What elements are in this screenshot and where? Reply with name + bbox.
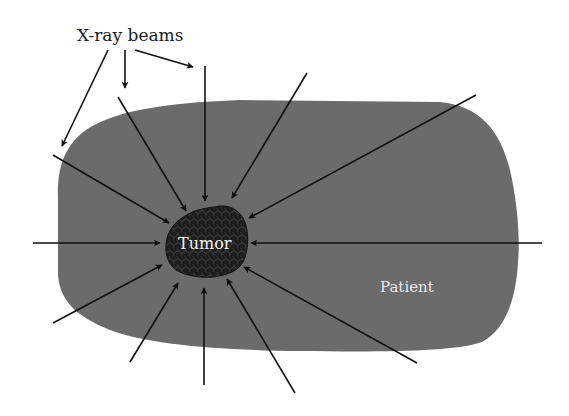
patient-body-shape — [58, 100, 519, 351]
x-ray-beams-label: X-ray beams — [77, 25, 183, 45]
tumor-label: Tumor — [178, 234, 232, 253]
patient-label: Patient — [380, 278, 434, 296]
radiotherapy-diagram: X-ray beams Tumor Patient — [0, 0, 569, 416]
label-arrow-3-arrow-icon — [135, 50, 193, 67]
